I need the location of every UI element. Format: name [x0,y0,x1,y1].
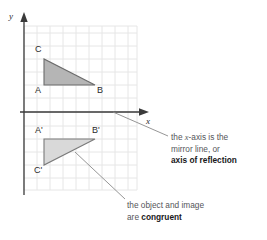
congruent-leader [75,152,125,199]
congruent-note-line1: the object and image [127,200,204,212]
congruent-note: the object and image are congruent [127,200,204,223]
vertex-label-a: A [35,86,41,95]
congruent-note-line2: are congruent [127,212,204,224]
mirror-line-note-line2: mirror line, or [171,144,237,156]
vertex-label-c-prime: C' [34,166,42,175]
mirror-line-leader [113,112,168,136]
mirror-line-note-line3: axis of reflection [171,155,237,167]
congruent-note-line2-prefix: are [127,212,141,222]
mirror-line-note-line1-suffix: -axis is the [189,132,229,142]
mirror-line-note: the x-axis is the mirror line, or axis o… [171,132,237,167]
reflection-figure: y x C A B A' B' C' the x-axis is the mir… [0,0,267,240]
x-axis-label: x [146,117,150,126]
y-axis-label: y [9,12,13,21]
x-axis [20,108,149,115]
mirror-line-note-line1-prefix: the [171,132,185,142]
y-axis [20,12,27,195]
congruent-note-keyword: congruent [141,212,182,222]
vertex-label-b: B [97,86,103,95]
vertex-label-b-prime: B' [92,126,100,135]
vertex-label-a-prime: A' [35,126,43,135]
vertex-label-c: C [35,45,42,54]
mirror-line-note-line1: the x-axis is the [171,132,237,144]
